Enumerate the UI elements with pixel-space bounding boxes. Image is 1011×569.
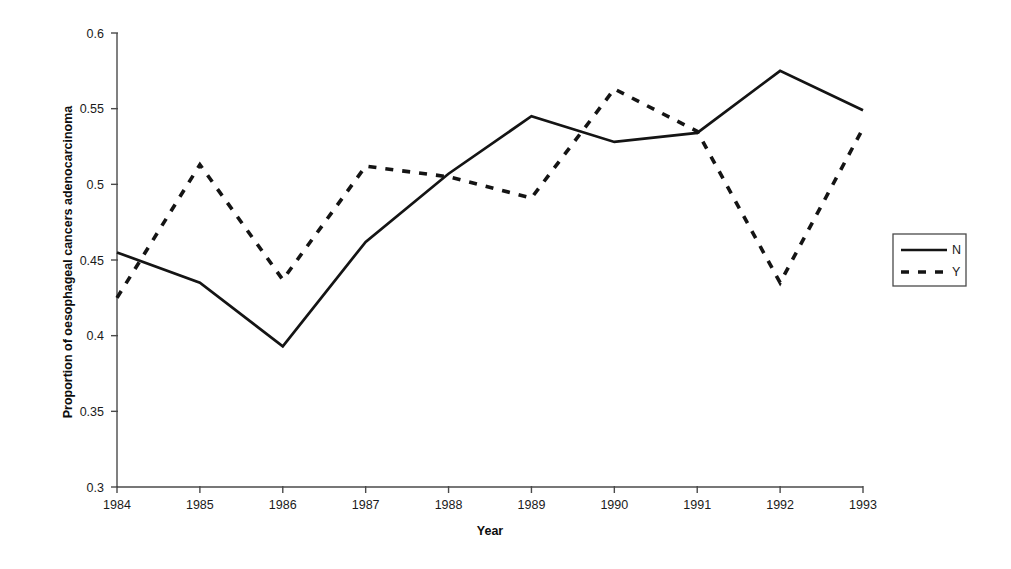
x-tick-label-1987: 1987 [352, 498, 380, 512]
y-axis-title: Proportion of oesophageal cancers adenoc… [61, 105, 75, 419]
x-axis-title: Year [477, 524, 504, 538]
y-axis-group: 0.30.350.40.450.50.550.6 [80, 27, 118, 495]
x-tick-label-1984: 1984 [103, 498, 131, 512]
x-tick-label-1988: 1988 [435, 498, 463, 512]
y-tick-labels: 0.30.350.40.450.50.550.6 [80, 27, 104, 495]
chart-container: 0.30.350.40.450.50.550.6 198419851986198… [0, 0, 1011, 569]
x-axis-group: 1984198519861987198819891990199119921993 [103, 486, 877, 512]
x-tick-label-1990: 1990 [600, 498, 628, 512]
y-tick-label-0.55: 0.55 [80, 102, 104, 116]
y-tick-label-0.5: 0.5 [87, 178, 104, 192]
x-tick-label-1989: 1989 [518, 498, 546, 512]
x-tick-labels: 1984198519861987198819891990199119921993 [103, 498, 877, 512]
series-layer [117, 71, 863, 346]
legend: NY [893, 234, 966, 286]
line-chart: 0.30.350.40.450.50.550.6 198419851986198… [0, 0, 1011, 569]
series-line-N [117, 71, 863, 346]
x-tick-label-1993: 1993 [849, 498, 877, 512]
y-tick-label-0.3: 0.3 [87, 481, 104, 495]
x-tick-label-1992: 1992 [766, 498, 794, 512]
y-tick-label-0.6: 0.6 [87, 27, 104, 41]
y-tick-label-0.45: 0.45 [80, 254, 104, 268]
y-tick-label-0.35: 0.35 [80, 405, 104, 419]
x-tick-label-1991: 1991 [683, 498, 711, 512]
legend-label-Y: Y [952, 265, 961, 279]
y-tick-label-0.4: 0.4 [87, 329, 104, 343]
series-line-Y [117, 89, 863, 298]
legend-label-N: N [952, 243, 961, 257]
legend-entries: NY [901, 243, 961, 279]
x-tick-label-1986: 1986 [269, 498, 297, 512]
x-tick-label-1985: 1985 [186, 498, 214, 512]
